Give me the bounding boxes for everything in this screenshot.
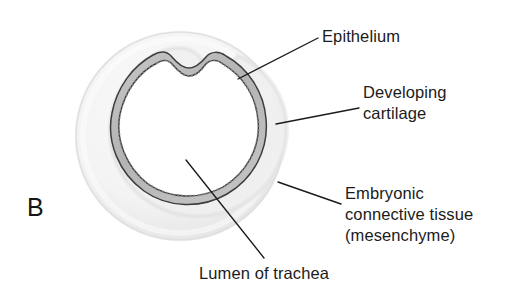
label-cartilage-line2: cartilage [363,103,447,124]
label-lumen-of-trachea: Lumen of trachea [199,263,329,284]
leader-mesenchyme [278,182,341,204]
label-cartilage-line1: Developing [363,82,447,103]
label-lumen-line1: Lumen of trachea [199,263,329,284]
trachea-cross-section-figure: B Epithelium Developing cartilage Embryo… [0,0,522,304]
label-epithelium-line1: Epithelium [322,26,400,47]
diagram-canvas [0,0,522,304]
label-mesenchyme-line3: (mesenchyme) [345,225,473,246]
label-mesenchyme-line2: connective tissue [345,204,473,225]
label-developing-cartilage: Developing cartilage [363,82,447,124]
label-mesenchyme-line1: Embryonic [345,183,473,204]
label-embryonic-connective-tissue: Embryonic connective tissue (mesenchyme) [345,183,473,246]
label-epithelium: Epithelium [322,26,400,47]
panel-letter-b: B [27,193,44,222]
